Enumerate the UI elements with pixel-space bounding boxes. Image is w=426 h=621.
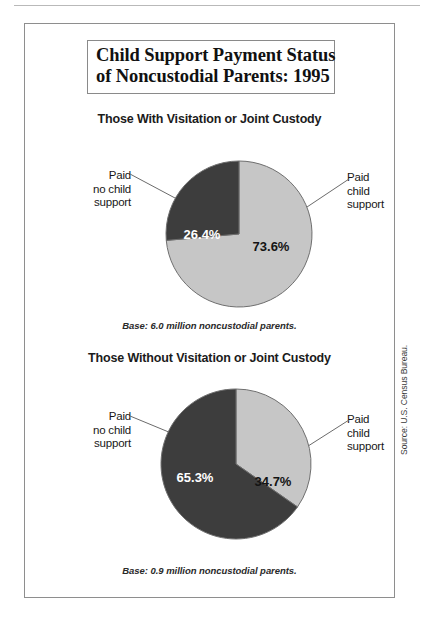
figure-title-line-1: Child Support Payment Status [96, 45, 326, 66]
callout-label-paid-child-support-1: Paid child support [347, 171, 426, 212]
callout-line: support [347, 440, 426, 454]
callout-line: Paid [47, 169, 131, 183]
pie-value-label-light-2: 34.7% [255, 474, 292, 489]
pie-value-label-light-1: 73.6% [253, 239, 290, 254]
panel-heading-without-visitation: Those Without Visitation or Joint Custod… [25, 351, 394, 365]
figure-frame: Child Support Payment Status of Noncusto… [24, 23, 395, 598]
figure-title: Child Support Payment Status of Noncusto… [87, 40, 335, 94]
callout-line: Paid [47, 410, 131, 424]
panel-heading-with-visitation: Those With Visitation or Joint Custody [25, 112, 394, 126]
pie-chart-without-visitation: 65.3% 34.7% [137, 382, 337, 542]
callout-label-paid-no-child-support-2: Paid no child support [47, 410, 131, 451]
callout-line: support [47, 196, 131, 210]
callout-label-paid-child-support-2: Paid child support [347, 413, 426, 454]
callout-label-paid-no-child-support-1: Paid no child support [47, 169, 131, 210]
callout-line: child [347, 427, 426, 441]
pie-value-label-dark-1: 26.4% [184, 227, 221, 242]
page-top-rule [14, 5, 420, 6]
callout-line: Paid [347, 413, 426, 427]
callout-line: no child [47, 424, 131, 438]
callout-line: child [347, 185, 426, 199]
pie-value-label-dark-2: 65.3% [177, 470, 214, 485]
callout-line: Paid [347, 171, 426, 185]
base-note-with-visitation: Base: 6.0 million noncustodial parents. [25, 320, 394, 331]
pie-chart-with-visitation: 26.4% 73.6% [140, 153, 340, 313]
figure-title-line-2: of Noncustodial Parents: 1995 [96, 66, 326, 87]
callout-line: no child [47, 183, 131, 197]
source-credit: Source: U.S. Census Bureau. [399, 345, 409, 455]
base-note-without-visitation: Base: 0.9 million noncustodial parents. [25, 565, 394, 576]
callout-line: support [347, 198, 426, 212]
callout-line: support [47, 437, 131, 451]
